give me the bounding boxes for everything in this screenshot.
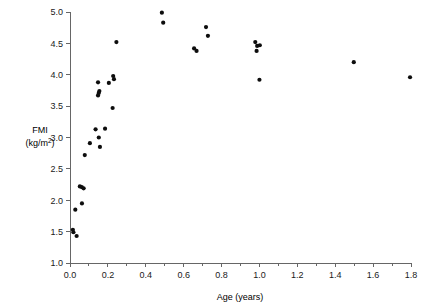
y-tick-label-8: 5.0	[50, 7, 63, 17]
y-axis-unit-prefix: (kg/m	[25, 138, 48, 148]
data-point	[88, 141, 92, 145]
data-point	[204, 25, 208, 29]
data-point	[107, 81, 111, 85]
x-tick-label-7: 1.4	[329, 270, 342, 280]
data-point	[352, 60, 356, 64]
data-point	[114, 40, 118, 44]
y-tick-label-7: 4.5	[50, 39, 63, 49]
data-point	[194, 49, 198, 53]
y-tick-label-3: 2.5	[50, 164, 63, 174]
data-point	[75, 234, 79, 238]
x-tick-label-4: 0.8	[215, 270, 228, 280]
data-point	[253, 40, 257, 44]
data-point	[257, 78, 261, 82]
x-axis-title: Age (years)	[217, 292, 264, 302]
plot-canvas: 0.00.20.40.60.81.01.21.41.61.8 1.01.52.0…	[0, 0, 430, 307]
data-point	[98, 145, 102, 149]
x-tick-label-3: 0.6	[177, 270, 190, 280]
data-point	[73, 208, 77, 212]
data-point	[112, 77, 116, 81]
data-point	[93, 127, 97, 131]
data-point	[97, 135, 101, 139]
data-point	[103, 127, 107, 131]
data-point	[96, 93, 100, 97]
x-tick-label-5: 1.0	[253, 270, 266, 280]
data-point	[80, 201, 84, 205]
data-point	[82, 186, 86, 190]
x-tick-label-0: 0.0	[64, 270, 77, 280]
y-axis-title-line2: (kg/m2)	[25, 137, 54, 148]
y-tick-label-5: 3.5	[50, 101, 63, 111]
data-point	[408, 75, 412, 79]
x-tick-label-9: 1.8	[405, 270, 418, 280]
data-point	[71, 230, 75, 234]
y-tick-label-0: 1.0	[50, 258, 63, 268]
y-tick-label-2: 2.0	[50, 196, 63, 206]
y-axis-unit-suffix: )	[52, 138, 55, 148]
x-tick-label-2: 0.4	[140, 270, 153, 280]
x-tick-labels: 0.00.20.40.60.81.01.21.41.61.8	[64, 270, 418, 280]
axes	[70, 12, 411, 263]
tick-marks	[66, 12, 411, 267]
x-tick-label-6: 1.2	[291, 270, 304, 280]
y-tick-label-1: 1.5	[50, 227, 63, 237]
data-points	[71, 11, 412, 239]
data-point	[111, 106, 115, 110]
y-axis-title-line1: FMI	[32, 125, 48, 135]
x-tick-label-1: 0.2	[102, 270, 115, 280]
data-point	[96, 80, 100, 84]
data-point	[258, 43, 262, 47]
data-point	[161, 21, 165, 25]
data-point	[255, 49, 259, 53]
x-tick-label-8: 1.6	[367, 270, 380, 280]
data-point	[160, 11, 164, 15]
data-point	[206, 34, 210, 38]
data-point	[83, 153, 87, 157]
scatter-plot-figure: 0.00.20.40.60.81.01.21.41.61.8 1.01.52.0…	[0, 0, 430, 307]
y-tick-label-6: 4.0	[50, 70, 63, 80]
